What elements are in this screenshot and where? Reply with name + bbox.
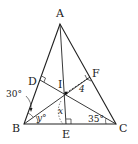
arrow-30	[30, 108, 33, 112]
triangle-abc	[24, 24, 116, 124]
length-label-4: 4	[78, 84, 85, 94]
triangle-incenter-diagram: A B C D E F I 30° y° x 35° 4	[0, 0, 138, 144]
label-f: F	[92, 67, 100, 80]
label-a: A	[55, 7, 65, 20]
angle-label-x: x	[58, 106, 63, 116]
right-angle-e	[66, 119, 71, 124]
segment-if	[66, 77, 90, 93]
label-i: I	[58, 78, 62, 91]
segment-cd	[40, 80, 116, 124]
label-b: B	[12, 122, 20, 135]
incenter-dot	[64, 91, 67, 94]
angle-label-30: 30°	[6, 89, 22, 99]
label-e: E	[62, 128, 70, 141]
label-d: D	[28, 75, 37, 88]
angle-label-35: 35°	[88, 114, 104, 124]
arc-30	[28, 113, 33, 117]
angle-label-y: y°	[36, 113, 47, 123]
label-c: C	[119, 122, 127, 135]
